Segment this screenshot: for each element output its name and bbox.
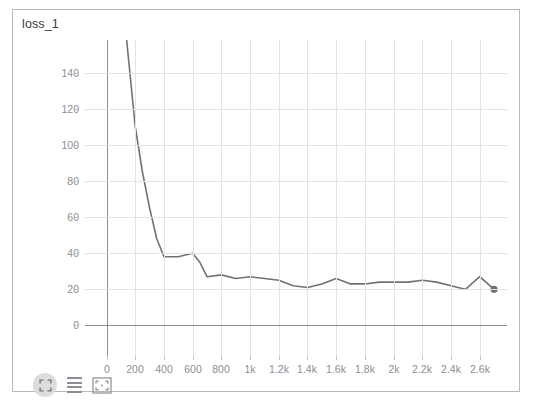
x-axis-tick-label: 1.2k (269, 363, 289, 375)
x-axis-tick-mark (279, 356, 280, 360)
gridline-horizontal (85, 217, 507, 218)
gridline-horizontal (85, 145, 507, 146)
x-axis-tick-mark (250, 356, 251, 360)
plot-inner (85, 40, 507, 358)
x-axis-tick-mark (193, 356, 194, 360)
y-axis-tick-mark (75, 217, 79, 218)
x-axis-tick-mark (451, 356, 452, 360)
x-axis-tick-mark (107, 356, 108, 360)
x-axis-labels: 02004006008001k1.2k1.4k1.6k1.8k2k2.2k2.4… (85, 360, 507, 380)
select-region-icon[interactable] (91, 375, 113, 395)
x-axis-tick-mark (164, 356, 165, 360)
x-axis-tick-label: 2.2k (412, 363, 432, 375)
gridline-horizontal (85, 181, 507, 182)
y-axis-tick-mark (75, 145, 79, 146)
x-axis-tick-mark (221, 356, 222, 360)
plot-area[interactable] (85, 40, 507, 358)
gridline-vertical (307, 40, 308, 358)
y-axis-tick-mark (75, 253, 79, 254)
gridline-vertical (451, 40, 452, 358)
x-axis-tick-label: 2.6k (470, 363, 490, 375)
x-axis-line (85, 325, 507, 326)
gridline-vertical (279, 40, 280, 358)
chart-toolbar (33, 372, 113, 398)
select-region-glyph (92, 377, 112, 394)
loss-curve-path (127, 40, 494, 289)
x-axis-tick-label: 1.6k (326, 363, 346, 375)
y-axis-line (107, 40, 108, 358)
gridline-vertical (250, 40, 251, 358)
legend-lines-icon[interactable] (64, 375, 84, 395)
gridline-vertical (164, 40, 165, 358)
x-axis-tick-label: 1.8k (355, 363, 375, 375)
fullscreen-expand-icon[interactable] (33, 373, 57, 397)
gridline-horizontal (85, 73, 507, 74)
x-axis-tick-mark (422, 356, 423, 360)
page-title: loss_1 (22, 17, 59, 31)
y-axis-tick-mark (75, 325, 79, 326)
x-axis-tick-mark (307, 356, 308, 360)
gridline-vertical (135, 40, 136, 358)
y-axis-tick-mark (75, 73, 79, 74)
x-axis-tick-label: 200 (126, 363, 144, 375)
gridline-vertical (221, 40, 222, 358)
x-axis-tick-mark (394, 356, 395, 360)
fullscreen-expand-glyph (39, 379, 52, 392)
x-axis-tick-label: 600 (184, 363, 202, 375)
x-axis-tick-mark (480, 356, 481, 360)
y-axis-tick-mark (75, 109, 79, 110)
x-axis-tick-label: 1k (244, 363, 255, 375)
x-axis-tick-label: 800 (212, 363, 230, 375)
chart-panel: loss_1 020406080100120140 02004006008001… (12, 9, 520, 392)
x-axis-tick-label: 2.4k (441, 363, 461, 375)
loss-curve (85, 40, 507, 358)
gridline-vertical (193, 40, 194, 358)
gridline-vertical (480, 40, 481, 358)
gridline-horizontal (85, 253, 507, 254)
x-axis-tick-mark (135, 356, 136, 360)
x-axis-tick-mark (365, 356, 366, 360)
y-axis-labels: 020406080100120140 (27, 40, 79, 358)
gridline-vertical (422, 40, 423, 358)
y-axis-tick-mark (75, 181, 79, 182)
gridline-vertical (365, 40, 366, 358)
x-axis-tick-label: 1.4k (297, 363, 317, 375)
screenshot-root: loss_1 020406080100120140 02004006008001… (0, 0, 534, 410)
gridline-horizontal (85, 289, 507, 290)
x-axis-tick-label: 400 (155, 363, 173, 375)
gridline-vertical (336, 40, 337, 358)
y-axis-tick-mark (75, 289, 79, 290)
gridline-horizontal (85, 109, 507, 110)
legend-lines-glyph (67, 377, 82, 392)
x-axis-tick-label: 2k (388, 363, 399, 375)
x-axis-tick-mark (336, 356, 337, 360)
gridline-vertical (394, 40, 395, 358)
